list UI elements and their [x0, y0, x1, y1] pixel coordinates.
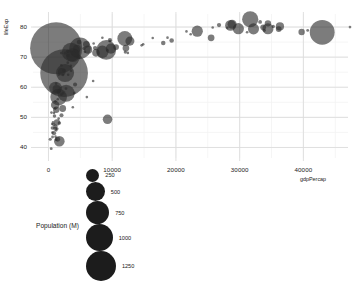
data-point-bubble [185, 30, 188, 33]
legend-item: 750 [86, 201, 142, 224]
data-point-bubble [263, 29, 266, 32]
data-point-bubble [208, 34, 215, 41]
data-point-bubble [62, 69, 66, 73]
data-point-bubble [127, 52, 130, 55]
legend-bubble [86, 201, 109, 224]
data-point-bubble [50, 111, 53, 114]
data-point-bubble [67, 73, 70, 76]
data-point-bubble [53, 112, 56, 115]
x-tick-label: 0 [28, 166, 68, 173]
data-point-bubble [77, 40, 82, 45]
x-tick-label: 40000 [283, 166, 323, 173]
y-tick-label: 70 [9, 53, 27, 60]
legend-item: 500 [86, 182, 142, 201]
data-point-bubble [59, 105, 66, 112]
data-point-bubble [166, 36, 169, 39]
data-point-bubble [93, 46, 97, 50]
data-point-bubble [55, 82, 58, 85]
legend-value: 1250 [122, 263, 134, 269]
data-point-bubble [92, 49, 100, 57]
data-point-bubble [51, 126, 55, 130]
data-point-bubble [83, 41, 90, 48]
data-point-bubble [56, 127, 59, 130]
legend-item: 250 [86, 169, 142, 182]
data-point-bubble [82, 47, 85, 50]
data-point-bubble [73, 82, 77, 86]
data-point-bubble [72, 50, 79, 57]
data-point-bubble [51, 136, 54, 139]
data-point-bubble [51, 123, 54, 126]
data-point-bubble [151, 37, 154, 40]
data-point-bubble [70, 69, 73, 72]
legend-value: 750 [115, 210, 124, 216]
data-point-bubble [66, 61, 69, 64]
data-point-bubble [125, 37, 134, 46]
data-point-bubble [109, 40, 112, 43]
data-point-bubble [57, 73, 60, 76]
data-point-bubble [73, 92, 76, 95]
legend-bubble [86, 224, 113, 251]
y-tick-label: 40 [9, 143, 27, 150]
legend-bubble [86, 182, 105, 201]
data-point-bubble [298, 29, 304, 35]
data-point-bubble [226, 26, 229, 29]
data-point-bubble [258, 20, 262, 24]
data-point-bubble [265, 20, 271, 26]
data-point-bubble [248, 23, 259, 34]
data-point-bubble [92, 80, 95, 83]
data-point-bubble [54, 107, 57, 110]
data-point-bubble [306, 29, 309, 32]
legend-items: 25050075010001250 [86, 169, 142, 281]
legend-item: 1250 [86, 251, 142, 281]
bubble-chart-figure: lifeExp gdpPercap 4050607080 01000020000… [0, 0, 355, 195]
data-point-bubble [161, 41, 166, 46]
data-point-bubble [92, 42, 95, 45]
data-point-bubble [211, 26, 214, 29]
data-point-bubble [67, 54, 70, 57]
data-point-bubble [86, 96, 89, 99]
data-point-bubble [59, 113, 63, 117]
data-point-bubble [60, 93, 63, 96]
data-point-bubble [349, 26, 352, 29]
data-point-bubble [70, 65, 73, 68]
x-tick-label: 20000 [156, 166, 196, 173]
x-tick-label: 30000 [220, 166, 260, 173]
data-point-bubble [124, 50, 127, 53]
data-point-bubble [189, 33, 192, 36]
data-point-bubble [78, 56, 81, 59]
data-point-bubble [62, 74, 65, 77]
data-point-bubble [57, 117, 60, 120]
legend-bubble [86, 251, 116, 281]
data-point-bubble [60, 64, 63, 67]
data-point-bubble [56, 98, 59, 101]
data-point-bubble [72, 106, 75, 109]
data-point-bubble [272, 25, 275, 28]
data-point-bubble [192, 26, 203, 37]
data-point-bubble [276, 26, 282, 32]
legend-title: Population (M) [36, 222, 79, 229]
data-point-bubble [55, 138, 58, 141]
data-point-bubble [65, 87, 68, 90]
y-tick-label: 60 [9, 83, 27, 90]
data-point-bubble [64, 52, 67, 55]
data-point-bubble [50, 147, 53, 150]
y-tick-label: 50 [9, 113, 27, 120]
data-point-bubble [57, 90, 61, 94]
legend-item: 1000 [86, 224, 142, 251]
data-point-bubble [103, 115, 113, 125]
data-point-bubble [123, 45, 130, 52]
data-point-bubble [169, 38, 174, 43]
data-point-bubble [142, 43, 145, 46]
data-point-bubble [228, 20, 237, 29]
data-point-bubble [246, 31, 249, 34]
legend-value: 250 [105, 172, 114, 178]
data-point-bubble [60, 52, 63, 55]
data-point-bubble [54, 135, 57, 138]
legend-value: 500 [111, 189, 120, 195]
data-point-bubble [51, 131, 54, 134]
legend-value: 1000 [119, 235, 131, 241]
size-legend: Population (M) 25050075010001250 [0, 196, 355, 254]
data-point-bubble [113, 44, 119, 50]
data-point-bubble [217, 23, 221, 27]
data-point-bubble [101, 37, 104, 40]
